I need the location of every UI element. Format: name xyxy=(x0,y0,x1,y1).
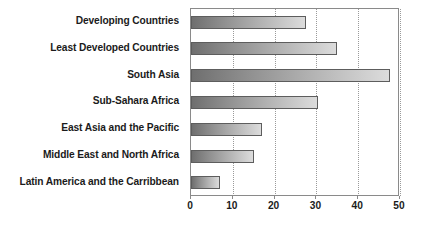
x-tick-mark xyxy=(274,196,275,199)
bar-chart-figure: Developing CountriesLeast Developed Coun… xyxy=(0,0,426,225)
category-label: Middle East and North Africa xyxy=(43,142,179,169)
x-tick-mark xyxy=(315,196,316,199)
bar xyxy=(191,123,262,136)
x-tick-mark xyxy=(232,196,233,199)
bar xyxy=(191,176,220,189)
bar xyxy=(191,69,390,82)
bar-row xyxy=(191,63,400,90)
bar-row xyxy=(191,9,400,36)
x-tick-mark xyxy=(190,196,191,199)
plot-area xyxy=(190,8,399,196)
bar-row xyxy=(191,116,400,143)
x-tick-label: 40 xyxy=(342,200,372,211)
category-label: Developing Countries xyxy=(76,8,179,35)
gridline xyxy=(400,9,402,196)
x-tick-mark xyxy=(357,196,358,199)
bar xyxy=(191,150,254,163)
category-label: South Asia xyxy=(127,62,179,89)
category-labels: Developing CountriesLeast Developed Coun… xyxy=(0,8,184,196)
bar-row xyxy=(191,89,400,116)
bar xyxy=(191,42,337,55)
bar-row xyxy=(191,170,400,197)
bar xyxy=(191,16,306,29)
x-tick-label: 10 xyxy=(217,200,247,211)
category-label: Latin America and the Carribbean xyxy=(20,169,179,196)
bar-series xyxy=(191,9,398,196)
x-tick-label: 20 xyxy=(259,200,289,211)
x-axis-line xyxy=(190,195,399,196)
category-label: Least Developed Countries xyxy=(50,35,179,62)
x-tick-label: 0 xyxy=(175,200,205,211)
x-tick-mark xyxy=(399,196,400,199)
bar-row xyxy=(191,143,400,170)
bar-row xyxy=(191,36,400,63)
bar xyxy=(191,96,318,109)
x-tick-label: 50 xyxy=(384,200,414,211)
category-label: Sub-Sahara Africa xyxy=(93,88,179,115)
x-tick-label: 30 xyxy=(300,200,330,211)
category-label: East Asia and the Pacific xyxy=(61,115,179,142)
